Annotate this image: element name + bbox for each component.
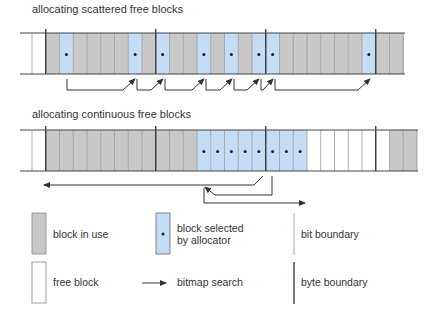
in-use-block: [390, 130, 404, 171]
in-use-block: [60, 130, 74, 171]
in-use-block: [87, 33, 101, 74]
in-use-block: [238, 33, 252, 74]
legend-free-label: free block: [53, 276, 99, 288]
selected-dot: [230, 53, 233, 56]
in-use-block: [335, 33, 349, 74]
in-use-block: [142, 33, 156, 74]
allocation-diagram: [0, 0, 436, 322]
in-use-block: [115, 33, 129, 74]
selected-dot: [257, 53, 260, 56]
selected-dot: [257, 150, 260, 153]
selected-dot: [134, 53, 137, 56]
in-use-block: [46, 33, 60, 74]
free-block: [307, 130, 321, 171]
legend-byte-boundary-label: byte boundary: [301, 276, 368, 288]
in-use-block: [87, 130, 101, 171]
in-use-block: [115, 130, 129, 171]
in-use-block: [403, 130, 417, 171]
in-use-block: [390, 33, 404, 74]
in-use-block: [293, 33, 307, 74]
in-use-block: [321, 33, 335, 74]
in-use-block: [307, 33, 321, 74]
free-block: [321, 130, 335, 171]
continuous-block-row: [20, 126, 418, 171]
selected-dot: [202, 150, 205, 153]
legend-in-use-swatch: [32, 213, 46, 254]
continuous-search-arrows: [44, 176, 305, 203]
legend-graphics: [32, 213, 294, 304]
legend-selected-label-1: block selected: [177, 222, 244, 234]
in-use-block: [348, 33, 362, 74]
selected-dot: [65, 53, 68, 56]
in-use-block: [170, 33, 184, 74]
selected-dot: [271, 53, 274, 56]
in-use-block: [183, 130, 197, 171]
selected-dot: [230, 150, 233, 153]
selected-dot: [367, 53, 370, 56]
in-use-block: [46, 130, 60, 171]
in-use-block: [101, 130, 115, 171]
free-block: [376, 130, 390, 171]
in-use-block: [211, 33, 225, 74]
in-use-block: [376, 33, 390, 74]
legend-bit-boundary-label: bit boundary: [301, 228, 359, 240]
selected-dot: [216, 150, 219, 153]
free-block: [362, 130, 376, 171]
in-use-block: [156, 130, 170, 171]
legend-bitmap-search-label: bitmap search: [177, 276, 243, 288]
selected-dot: [202, 53, 205, 56]
free-block: [348, 130, 362, 171]
scattered-block-row: [20, 29, 405, 74]
in-use-block: [170, 130, 184, 171]
in-use-block: [128, 130, 142, 171]
free-block: [32, 33, 46, 74]
in-use-block: [280, 33, 294, 74]
in-use-block: [183, 33, 197, 74]
selected-dot: [299, 150, 302, 153]
legend-in-use-label: block in use: [53, 228, 108, 240]
in-use-block: [73, 130, 87, 171]
free-block: [32, 130, 46, 171]
in-use-block: [142, 130, 156, 171]
free-block: [335, 130, 349, 171]
selected-dot: [244, 150, 247, 153]
in-use-block: [73, 33, 87, 74]
selected-dot: [285, 150, 288, 153]
selected-dot: [161, 53, 164, 56]
in-use-block: [101, 33, 115, 74]
scattered-search-arrows: [67, 79, 370, 90]
legend-selected-dot: [162, 233, 165, 236]
legend-selected-label-2: by allocator: [177, 234, 231, 246]
legend-free-swatch: [32, 262, 46, 303]
selected-dot: [271, 150, 274, 153]
